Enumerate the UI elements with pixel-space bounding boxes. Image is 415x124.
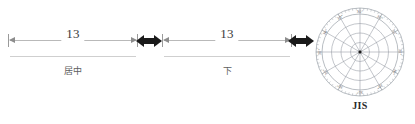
dimension-arrowhead-left-icon [9,37,15,43]
svg-text:30°: 30° [357,90,364,94]
svg-text:30°: 30° [322,68,329,76]
svg-text:30°: 30° [398,49,402,56]
drawing-canvas: 13 居中 13 下 30°30°30°30°30°30°30°30°30° [0,0,415,124]
arrow-head-right [154,35,162,47]
svg-text:30°: 30° [336,83,344,90]
dimension-caption: 下 [162,64,292,78]
svg-text:30°: 30° [376,83,384,90]
dimension-arrowhead-left-icon [163,37,169,43]
dimension-value: 13 [215,26,238,42]
svg-text:30°: 30° [391,68,398,76]
svg-text:30°: 30° [376,14,384,21]
polar-diagram[interactable]: 30°30°30°30°30°30°30°30°30°30°30°30° JIS [312,4,408,120]
polar-chart-svg: 30°30°30°30°30°30°30°30°30°30°30°30° [312,4,408,100]
svg-text:30°: 30° [322,28,329,36]
dimension-line-row: 13 [8,32,138,48]
dimension-caption: 居中 [8,64,138,78]
double-arrow-horizontal-icon [136,34,162,48]
svg-text:30°: 30° [391,28,398,36]
dimension-line-row: 13 [162,32,292,48]
dimension-baseline [164,56,290,57]
svg-text:30°: 30° [318,49,322,56]
dimension-value: 13 [61,26,84,42]
svg-text:30°: 30° [357,10,364,14]
double-arrow-horizontal-icon [288,34,314,48]
dimension-group-centered[interactable]: 13 居中 [8,0,138,124]
dimension-group-below[interactable]: 13 下 [162,0,292,124]
dimension-baseline [10,56,136,57]
polar-diagram-caption: JIS [312,100,408,111]
svg-text:30°: 30° [336,14,344,21]
